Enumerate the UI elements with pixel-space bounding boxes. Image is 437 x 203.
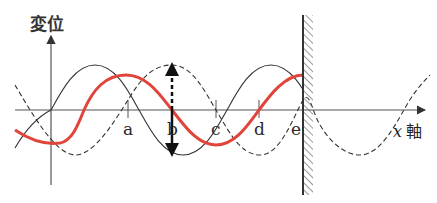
- y-axis-label: 変位: [30, 10, 64, 35]
- point-label-c: c: [211, 121, 221, 138]
- x-axis-word: 軸: [406, 122, 422, 141]
- arrowhead-down-icon: [165, 143, 179, 157]
- point-label-d: d: [254, 121, 265, 138]
- standing-wave-diagram: [0, 0, 437, 203]
- point-label-b: b: [167, 121, 178, 138]
- x-axis-label: x軸: [393, 118, 422, 142]
- x-axis-variable: x: [393, 122, 402, 141]
- tick-marks: [128, 100, 259, 118]
- point-label-a: a: [123, 121, 133, 138]
- arrowhead-up-icon: [165, 62, 179, 76]
- point-label-e: e: [291, 121, 301, 138]
- wall-hatch: [303, 15, 313, 195]
